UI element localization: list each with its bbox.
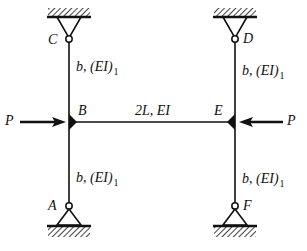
pin-D bbox=[232, 36, 238, 42]
load-label-left: P bbox=[5, 114, 14, 128]
ground-hatching-A bbox=[48, 227, 90, 237]
node-label-A: A bbox=[48, 199, 57, 213]
node-label-C: C bbox=[48, 33, 57, 47]
node-label-D: D bbox=[243, 32, 253, 46]
ground-hatching-F bbox=[214, 227, 256, 237]
ground-hatching-D bbox=[214, 8, 256, 16]
ground-hatching-C bbox=[48, 8, 90, 16]
member-label-BE: 2L, EI bbox=[135, 104, 170, 118]
node-label-E: E bbox=[214, 104, 223, 118]
member-label-DE: b, (EI)1 bbox=[242, 64, 285, 78]
load-label-right: P bbox=[287, 114, 296, 128]
pin-C bbox=[66, 36, 72, 42]
load-arrow-right bbox=[239, 117, 283, 127]
member-label-CB: b, (EI)1 bbox=[76, 60, 119, 74]
member-label-EF: b, (EI)1 bbox=[242, 172, 285, 186]
rigid-joint-B bbox=[69, 114, 77, 130]
member-label-BA: b, (EI)1 bbox=[76, 171, 119, 185]
node-label-F: F bbox=[243, 199, 252, 213]
node-label-B: B bbox=[78, 104, 87, 118]
frame-diagram: C D B E A F P P b, (EI)1 b, (EI)1 b, (EI… bbox=[0, 0, 307, 251]
frame-drawing bbox=[0, 0, 307, 251]
load-arrow-left bbox=[20, 117, 66, 127]
support-triangle-C bbox=[57, 17, 81, 38]
rigid-joint-E bbox=[227, 114, 235, 130]
support-triangle-A bbox=[57, 209, 81, 225]
